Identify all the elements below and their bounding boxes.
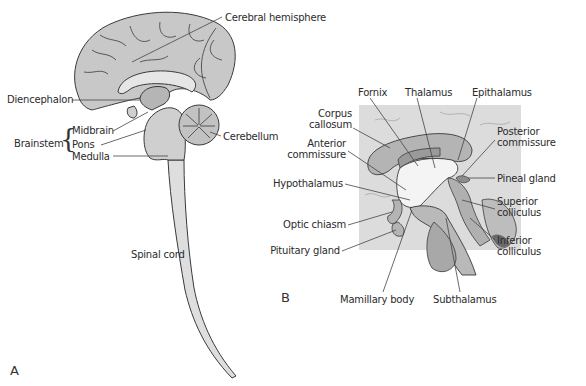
label-inferior-colliculus-line1: Inferior <box>497 235 531 246</box>
label-medulla: Medulla <box>72 151 110 162</box>
label-cerebellum: Cerebellum <box>223 131 278 142</box>
label-epithalamus: Epithalamus <box>472 87 532 98</box>
label-brainstem: Brainstem <box>14 138 63 149</box>
label-fornix: Fornix <box>358 87 387 98</box>
label-superior-colliculus-line2: colliculus <box>497 207 541 218</box>
label-inferior-colliculus-line2: colliculus <box>497 246 541 257</box>
label-posterior-commissure-line2: commissure <box>497 137 556 148</box>
label-spinal-cord: Spinal cord <box>131 249 185 260</box>
label-pons: Pons <box>72 139 95 150</box>
spinal-cord <box>168 160 236 378</box>
panel-b-letter: B <box>281 290 290 305</box>
brain-anatomy-figure <box>0 0 586 386</box>
label-anterior-commissure-line1: Anterior <box>280 138 346 149</box>
label-pineal-gland: Pineal gland <box>497 173 556 184</box>
label-optic-chiasm: Optic chiasm <box>270 219 346 230</box>
label-hypothalamus: Hypothalamus <box>270 178 343 189</box>
label-superior-colliculus-line1: Superior <box>497 196 538 207</box>
label-corpus-callosum-line2: callosum <box>300 119 352 130</box>
label-pituitary-gland: Pituitary gland <box>240 245 340 256</box>
label-thalamus: Thalamus <box>405 87 452 98</box>
label-mamillary-body: Mamillary body <box>340 294 414 305</box>
label-anterior-commissure-line2: commissure <box>280 149 346 160</box>
panel-a-letter: A <box>10 363 19 378</box>
label-cerebral-hemisphere: Cerebral hemisphere <box>225 12 326 23</box>
brainstem <box>144 108 185 160</box>
label-midbrain: Midbrain <box>72 125 114 136</box>
label-posterior-commissure-line1: Posterior <box>497 126 539 137</box>
panel-a-drawing <box>75 12 236 378</box>
label-subthalamus: Subthalamus <box>433 294 496 305</box>
label-corpus-callosum-line1: Corpus <box>300 108 352 119</box>
label-diencephalon: Diencephalon <box>7 94 73 105</box>
